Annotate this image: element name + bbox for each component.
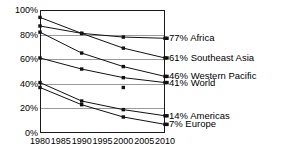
series-label-world: 41% World [169, 78, 215, 88]
series-label-southeast-asia: 61% Southeast Asia [169, 53, 254, 63]
series-label-africa: 77% Africa [169, 33, 214, 43]
series-endpoint-labels: 77% Africa61% Southeast Asia46% Western … [0, 0, 281, 156]
series-label-europe: 7% Europe [169, 119, 216, 129]
line-chart: 0%20%40%60%80%100% 198019851990199520002… [0, 0, 281, 156]
